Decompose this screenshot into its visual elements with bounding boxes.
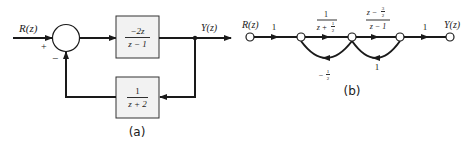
feedback-arc-n3-n2: [352, 41, 400, 58]
input-label-a: R(z): [18, 22, 38, 35]
gain-fb-n3-n2: 1: [375, 62, 380, 72]
feedback-path-left: [66, 52, 116, 97]
node-input: [246, 33, 254, 41]
arrow-n3-y: [421, 34, 429, 40]
arrow-r-n1: [271, 34, 279, 40]
node-n2: [348, 33, 356, 41]
gain-n1-n2-den-main: z +: [316, 23, 328, 32]
feedback-denominator: z + 2: [127, 99, 147, 109]
gain-r-n1: 1: [272, 22, 277, 32]
gain-n2-n3-denominator: z − 1: [369, 22, 387, 31]
gain-fb-n2-n1-sign: −: [319, 71, 324, 80]
diagram-b: R(z) 1 1 z + 1 2 z − 3 2 z − 1 1 − 1 2: [241, 6, 461, 98]
node-n3: [396, 33, 404, 41]
output-label-a: Y(z): [201, 22, 218, 34]
block-diagrams: R(z) + − −2z z − 1 Y(z) 1 z + 2 (a) R(z)…: [0, 0, 471, 147]
arrow-n1-n2: [322, 34, 330, 40]
arrow-n2-n3: [371, 34, 379, 40]
summing-junction: [53, 25, 80, 52]
gain-n3-y: 1: [423, 22, 428, 32]
minus-sign: −: [52, 52, 58, 64]
input-label-b: R(z): [241, 19, 259, 31]
gain-fb-n2-n1-fden: 2: [327, 76, 330, 81]
forward-numerator: −2z: [130, 26, 145, 36]
node-output: [446, 33, 454, 41]
gain-n1-n2-numerator: 1: [324, 10, 328, 19]
caption-a: (a): [129, 125, 146, 139]
feedback-arc-n2-n1: [301, 41, 352, 58]
gain-n1-n2-den-fnum: 1: [332, 21, 335, 26]
gain-n2-n3-num-fden: 2: [382, 13, 385, 18]
forward-block: [116, 16, 159, 58]
forward-denominator: z − 1: [127, 39, 147, 49]
gain-n1-n2-den-fden: 2: [332, 28, 335, 33]
feedback-numerator: 1: [135, 86, 140, 96]
feedback-path-right: [160, 38, 195, 97]
gain-fb-n2-n1-fnum: 1: [327, 69, 330, 74]
output-label-b: Y(z): [444, 19, 461, 31]
gain-n2-n3-num-fnum: 3: [382, 6, 385, 11]
node-n1: [297, 33, 305, 41]
plus-sign: +: [41, 41, 47, 52]
caption-b: (b): [344, 84, 361, 98]
arrow-feedback-n2-n1: [322, 55, 330, 61]
arrow-feedback-n3-n2: [372, 55, 380, 61]
gain-n2-n3-num-main: z −: [366, 8, 378, 17]
diagram-a: R(z) + − −2z z − 1 Y(z) 1 z + 2 (a): [13, 16, 231, 139]
